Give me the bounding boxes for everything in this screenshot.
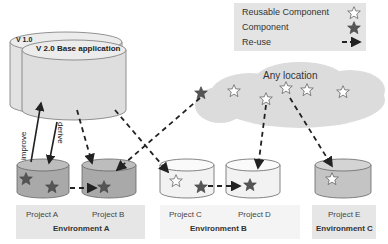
project-d-label: Project D [238, 210, 271, 219]
project-c-label: Project C [169, 210, 202, 219]
environment-b-title: Environment B [190, 224, 247, 233]
v1-label: V 1.0 [16, 36, 32, 43]
project-e-label: Project E [328, 210, 360, 219]
filled-star-icon [348, 22, 361, 34]
derive-label: derive [56, 122, 65, 144]
v2-base-application-label: V 2.0 Base application [36, 44, 120, 53]
project-b-label: Project B [92, 210, 124, 219]
improve-label: improve [19, 132, 28, 160]
cloud-label: Any location [263, 70, 317, 81]
project-a-label: Project A [26, 210, 58, 219]
hollow-star-icon [348, 7, 361, 19]
legend: Reusable Component Component Re-use [234, 3, 366, 51]
environment-a-title: Environment A [53, 224, 110, 233]
environment-c-title: Environment C [316, 224, 373, 233]
